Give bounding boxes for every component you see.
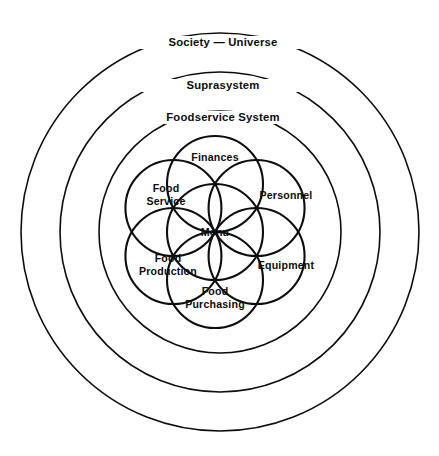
systems-diagram: Society — Universe Suprasystem Foodservi… bbox=[0, 0, 439, 456]
diagram-canvas bbox=[0, 0, 439, 456]
